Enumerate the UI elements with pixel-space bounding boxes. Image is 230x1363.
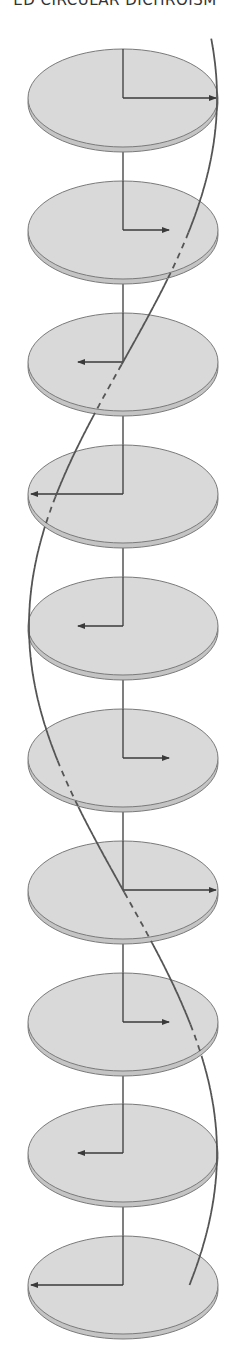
disc-5 bbox=[28, 577, 218, 680]
disc-9 bbox=[28, 1104, 218, 1207]
disc-10 bbox=[28, 1236, 218, 1339]
disc-2 bbox=[28, 181, 218, 284]
disc-7 bbox=[28, 841, 218, 944]
disc-1 bbox=[28, 49, 218, 152]
disc-6 bbox=[28, 709, 218, 812]
circular-dichroism-helix-diagram bbox=[0, 0, 230, 1363]
disc-3 bbox=[28, 313, 218, 416]
